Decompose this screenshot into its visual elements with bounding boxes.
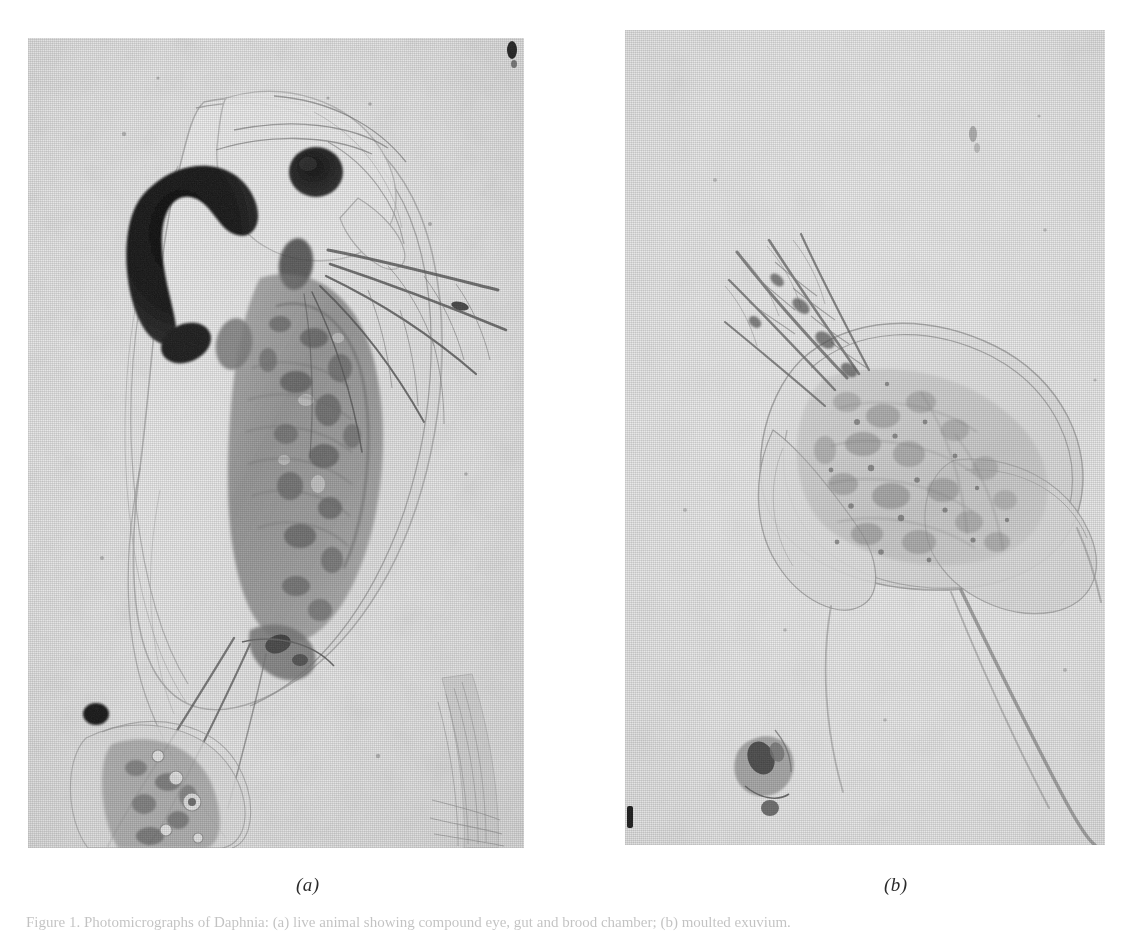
- figure-caption: Figure 1. Photomicrographs of Daphnia: (…: [26, 913, 1106, 931]
- panel-label-a: (a): [296, 874, 320, 896]
- figure-panel-b: [625, 30, 1105, 845]
- daphnia-live-photomicrograph: [28, 38, 524, 848]
- panel-label-b: (b): [884, 874, 908, 896]
- daphnia-exuvium-photomicrograph: [625, 30, 1105, 845]
- figure-panel-a: [28, 38, 524, 848]
